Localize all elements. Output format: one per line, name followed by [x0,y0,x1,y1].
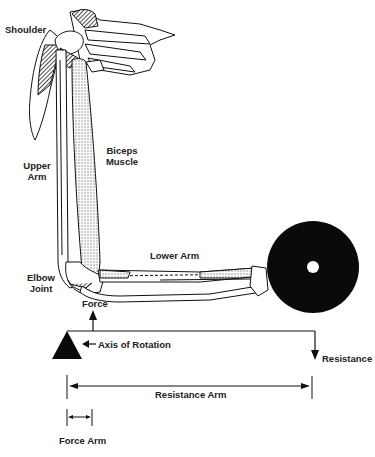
biceps-muscle [72,59,104,282]
lower-arm-label: Lower Arm [150,250,199,261]
force-arrow-icon [89,310,97,331]
resistance-label: Resistance [322,353,372,364]
force-arm-dimension [67,409,92,426]
forearm-bones [80,266,268,302]
force-arm-label: Force Arm [59,435,106,446]
force-label: Force [82,298,108,309]
elbow-label-line2: Joint [24,283,58,294]
elbow-label-line1: Elbow [24,272,58,283]
shoulder-label: Shoulder [5,24,46,35]
lever-diagram: Shoulder Biceps Muscle Upper Arm Lower A… [0,0,375,457]
shoulder-illustration [29,10,175,141]
biceps-label-line1: Biceps [102,145,142,156]
biceps-label-line2: Muscle [102,156,142,167]
upper-arm-label: Upper Arm [22,160,52,182]
upper-arm-label-line2: Arm [22,171,52,182]
biceps-muscle-label: Biceps Muscle [102,145,142,167]
resistance-arrow-icon [311,350,319,360]
axis-of-rotation-label: Axis of Rotation [98,339,171,350]
elbow-joint-label: Elbow Joint [24,272,58,294]
axis-arrow-icon [82,340,96,348]
weight-plate [267,221,359,313]
fulcrum-triangle-icon [52,331,82,359]
resistance-arm-label: Resistance Arm [155,389,226,400]
upper-arm-label-line1: Upper [22,160,52,171]
